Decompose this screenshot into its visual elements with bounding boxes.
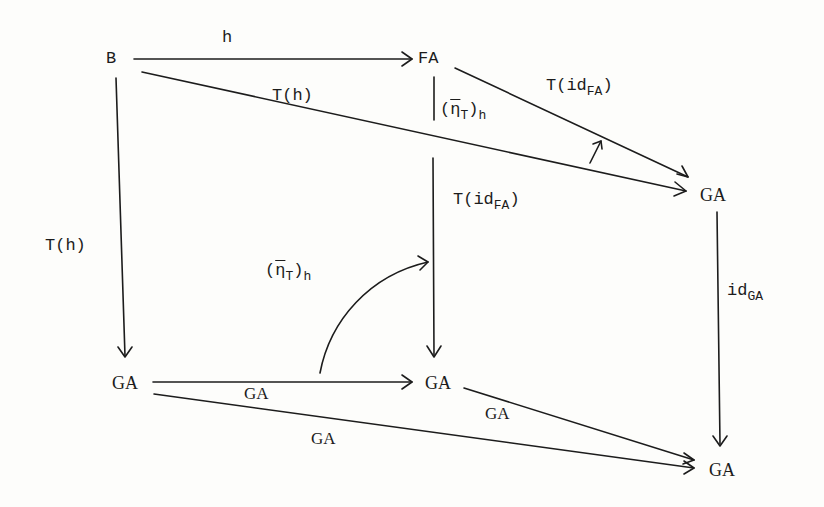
node-GA-bottom-mid: GA [425, 374, 451, 392]
label-subscript: FA [587, 84, 603, 99]
commutative-diagram: B FA GA GA GA GA h T(h) T(idFA) (ηT)h T(… [0, 0, 824, 507]
arrow-eta-curved [320, 256, 428, 373]
label-text: id [727, 281, 747, 300]
label-id-GA: idGA [727, 282, 763, 299]
label-GA-mid-to-right: GA [485, 405, 510, 422]
label-text: T(id [453, 190, 494, 209]
node-GA-top-right: GA [700, 186, 726, 204]
label-T-id-FA-diagonal: T(idFA) [546, 77, 613, 94]
arrow-h [134, 52, 412, 66]
arrow-T-id-FA-vertical [427, 158, 441, 357]
label-h: h [222, 29, 232, 46]
label-eta-T-h-curved: (ηT)h [265, 262, 311, 279]
label-text: ) [293, 261, 303, 280]
label-eta-T-h-top: (ηT)h [440, 101, 486, 118]
label-text: ) [509, 190, 519, 209]
label-T-h-left: T(h) [45, 237, 86, 254]
eta-bar-symbol: η [275, 261, 285, 280]
label-text: ) [602, 76, 612, 95]
label-subscript: h [303, 269, 311, 284]
label-GA-left-to-right: GA [311, 430, 336, 447]
arrow-T-h-left [116, 78, 132, 357]
node-GA-bottom-left: GA [112, 374, 138, 392]
label-text: T(id [546, 76, 587, 95]
eta-bar-symbol: η [450, 100, 460, 119]
label-T-id-FA-vertical: T(idFA) [453, 191, 520, 208]
label-subscript: FA [494, 198, 510, 213]
node-B: B [106, 50, 116, 67]
label-GA-horizontal: GA [244, 385, 269, 402]
arrow-GA-horizontal [153, 375, 412, 389]
two-cell-arrow [590, 141, 602, 163]
label-T-h-diagonal: T(h) [272, 87, 313, 104]
arrow-id-GA [713, 212, 727, 446]
label-text: ( [440, 100, 450, 119]
label-subscript: GA [747, 289, 763, 304]
label-text: ) [468, 100, 478, 119]
node-GA-bottom-right: GA [709, 461, 735, 479]
diagram-edges [0, 0, 824, 507]
node-FA: FA [418, 50, 438, 67]
label-subscript: h [478, 108, 486, 123]
label-text: ( [265, 261, 275, 280]
